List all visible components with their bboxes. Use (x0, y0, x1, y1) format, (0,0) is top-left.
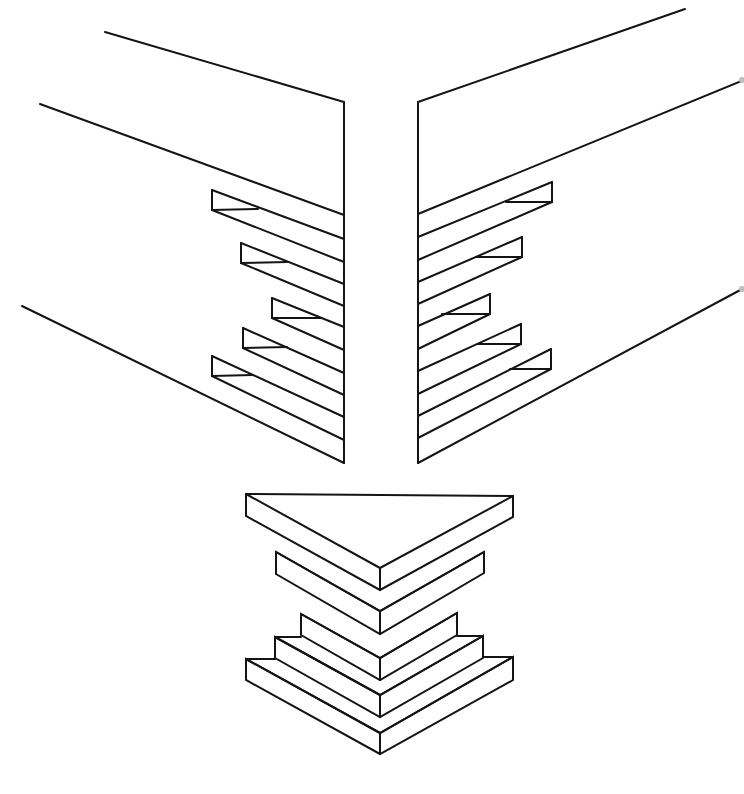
right-board (418, 9, 744, 463)
right-board-slot-lines (418, 182, 552, 438)
left-board (22, 32, 344, 463)
stacked-fingers (246, 494, 513, 754)
left-board-slot-lines (212, 190, 344, 440)
joint-diagram (0, 0, 744, 794)
left-board-face-line (40, 104, 344, 215)
right-board-face-line (418, 80, 744, 214)
